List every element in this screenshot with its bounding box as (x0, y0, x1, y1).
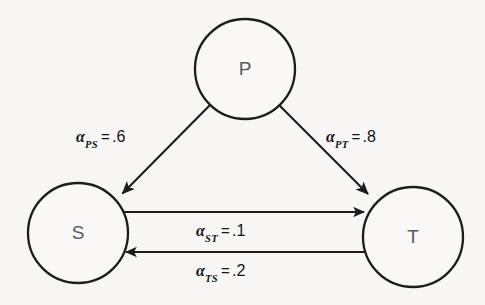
node-s-label: S (72, 222, 85, 243)
equals-sign-pt: = (349, 128, 363, 145)
alpha-symbol-ps: α (76, 128, 85, 145)
alpha-subscript-pt: PT (335, 139, 348, 150)
node-t-label: T (407, 226, 419, 247)
alpha-subscript-ts: TS (205, 273, 218, 284)
node-p-label: P (239, 58, 252, 79)
edge-p-to-t (279, 105, 368, 194)
equals-sign-st: = (218, 222, 232, 239)
edge-label-pt: αPT=.8 (326, 128, 376, 148)
alpha-symbol-ts: α (196, 262, 205, 279)
edge-label-st: αST=.1 (196, 222, 246, 242)
edge-label-ps: αPS=.6 (76, 128, 126, 148)
alpha-symbol-st: α (196, 222, 205, 239)
alpha-subscript-ps: PS (85, 139, 98, 150)
alpha-subscript-st: ST (205, 233, 218, 244)
equals-sign-ps: = (98, 128, 112, 145)
edge-p-to-s (123, 104, 212, 194)
edge-value-pt: .8 (362, 128, 376, 145)
edge-value-ps: .6 (112, 128, 126, 145)
edge-label-ts: αTS=.2 (196, 262, 246, 282)
diagram-canvas: P S T (0, 0, 485, 305)
path-diagram: P S T αPS=.6 αPT=.8 αST=.1 αTS=.2 (0, 0, 485, 305)
alpha-symbol-pt: α (326, 128, 335, 145)
edge-value-st: .1 (232, 222, 246, 239)
edge-value-ts: .2 (232, 262, 246, 279)
equals-sign-ts: = (218, 262, 232, 279)
